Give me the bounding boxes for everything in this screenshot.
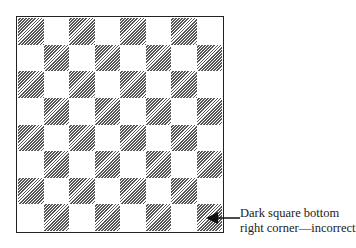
annotation-label: Dark square bottom right corner—incorrec… bbox=[240, 206, 356, 236]
annotation-line-1: Dark square bottom bbox=[240, 206, 356, 221]
annotation-line-2: right corner—incorrect bbox=[240, 221, 356, 236]
